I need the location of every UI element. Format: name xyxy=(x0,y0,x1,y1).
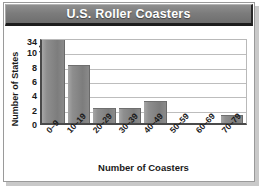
x-tick-slot: 0–9 xyxy=(40,127,66,163)
chart-figure: U.S. Roller Coasters Number of States 02… xyxy=(0,0,262,187)
bar[interactable] xyxy=(42,39,65,123)
x-tick-slot: 20–29 xyxy=(92,127,118,163)
y-axis-tick: 8 xyxy=(32,63,37,72)
bar-slot xyxy=(221,40,247,123)
x-axis-title: Number of Coasters xyxy=(40,162,247,173)
plot-area xyxy=(40,39,247,125)
x-axis-tick-labels: 0–910–1920–2930–3940–4950–5960–6970–79 xyxy=(40,127,247,163)
y-axis-tick-broken: 34 xyxy=(27,38,37,47)
bar-slot xyxy=(42,40,68,123)
y-axis-tick-labels: 024681034 xyxy=(21,39,37,125)
x-tick-slot: 70–79 xyxy=(221,127,247,163)
x-tick-slot: 40–49 xyxy=(144,127,170,163)
x-tick-slot: 30–39 xyxy=(118,127,144,163)
y-axis-tick: 2 xyxy=(32,106,37,115)
y-axis-tick: 10 xyxy=(27,49,37,58)
y-axis-title-label: Number of States xyxy=(10,51,20,126)
y-axis-tick: 0 xyxy=(32,121,37,130)
x-tick-slot: 50–59 xyxy=(169,127,195,163)
x-tick-slot: 10–19 xyxy=(66,127,92,163)
x-tick-slot: 60–69 xyxy=(195,127,221,163)
chart-title-banner: U.S. Roller Coasters xyxy=(5,4,253,26)
y-axis-title: Number of States xyxy=(8,41,22,136)
chart-body: Number of States 024681034 0–910–1920–29… xyxy=(5,31,255,181)
bar-slot xyxy=(195,40,221,123)
page-title: U.S. Roller Coasters xyxy=(66,7,190,21)
bar-series xyxy=(42,40,246,123)
y-axis-tick: 4 xyxy=(32,92,37,101)
y-axis-tick: 6 xyxy=(32,78,37,87)
